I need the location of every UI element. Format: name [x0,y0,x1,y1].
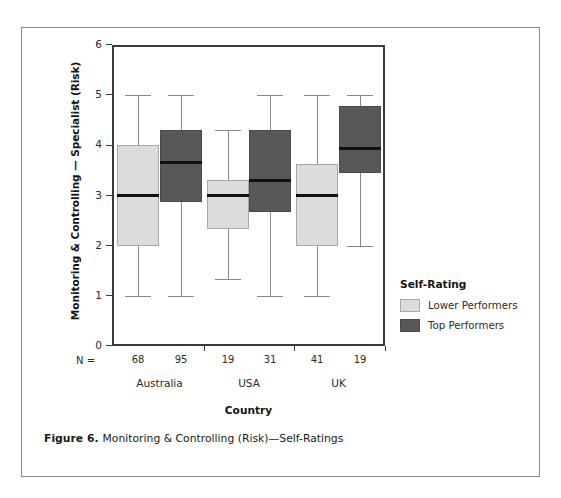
boxplot-median-line [296,194,338,197]
whisker-cap-lower [347,246,373,247]
y-tick-label: 2 [86,240,102,251]
figure-caption-text: Monitoring & Controlling (Risk)—Self-Rat… [103,432,344,445]
x-tick-mark [385,346,386,351]
y-tick-mark [106,195,112,196]
whisker-cap-lower [257,296,283,297]
n-value-label: 19 [208,355,248,365]
n-value-label: 41 [297,355,337,365]
whisker-cap-upper [257,95,283,96]
figure-caption: Figure 6.Monitoring & Controlling (Risk)… [44,432,343,445]
y-tick-mark [106,345,112,346]
whisker-cap-lower [304,296,330,297]
boxplot-box [160,130,202,202]
y-tick-label: 3 [86,190,102,201]
n-value-label: 68 [118,355,158,365]
whisker-lower [181,202,182,296]
x-axis-title: Country [112,404,385,416]
legend-entry: Top Performers [400,319,540,332]
whisker-upper [270,95,271,130]
boxplot-box [207,180,249,229]
whisker-lower [317,246,318,296]
y-tick-label: 5 [86,89,102,100]
figure-caption-label: Figure 6. [44,432,99,445]
boxplot-box [339,106,381,173]
x-tick-mark [204,346,205,351]
whisker-cap-lower [125,296,151,297]
category-label: UK [294,378,384,389]
whisker-cap-lower [215,279,241,280]
y-tick-label: 6 [86,39,102,50]
whisker-cap-upper [304,95,330,96]
boxplot-chart: Monitoring & Controlling — Specialist (R… [0,0,561,498]
n-prefix-label: N = [76,355,95,366]
boxplot-median-line [207,194,249,197]
y-tick-mark [106,145,112,146]
y-tick-label: 0 [86,340,102,351]
whisker-lower [270,212,271,296]
category-label: USA [204,378,294,389]
boxplot-median-line [339,147,381,150]
n-value-label: 31 [250,355,290,365]
legend: Self-Rating Lower PerformersTop Performe… [400,278,540,339]
y-tick-mark [106,295,112,296]
whisker-lower [138,246,139,296]
y-axis-title: Monitoring & Controlling — Specialist (R… [69,46,81,336]
boxplot-median-line [249,179,291,182]
n-value-label: 19 [340,355,380,365]
boxplot-box [296,164,338,245]
legend-label: Top Performers [428,320,504,331]
legend-title: Self-Rating [400,278,540,290]
legend-entry: Lower Performers [400,299,540,312]
y-tick-mark [106,44,112,45]
boxplot-median-line [117,194,159,197]
y-tick-label: 4 [86,139,102,150]
legend-entries: Lower PerformersTop Performers [400,299,540,332]
whisker-upper [317,95,318,164]
boxplot-median-line [160,161,202,164]
boxplot-box [249,130,291,212]
category-label: Australia [115,378,205,389]
whisker-cap-upper [215,130,241,131]
whisker-lower [228,229,229,279]
legend-label: Lower Performers [428,300,518,311]
legend-swatch [400,299,420,312]
whisker-cap-upper [168,95,194,96]
whisker-upper [138,95,139,145]
x-tick-mark [294,346,295,351]
y-tick-label: 1 [86,290,102,301]
legend-swatch [400,319,420,332]
y-tick-mark [106,245,112,246]
whisker-lower [360,173,361,246]
whisker-cap-upper [125,95,151,96]
whisker-cap-upper [347,95,373,96]
whisker-upper [228,130,229,180]
whisker-upper [360,95,361,106]
whisker-upper [181,95,182,130]
y-tick-mark [106,94,112,95]
n-value-label: 95 [161,355,201,365]
whisker-cap-lower [168,296,194,297]
